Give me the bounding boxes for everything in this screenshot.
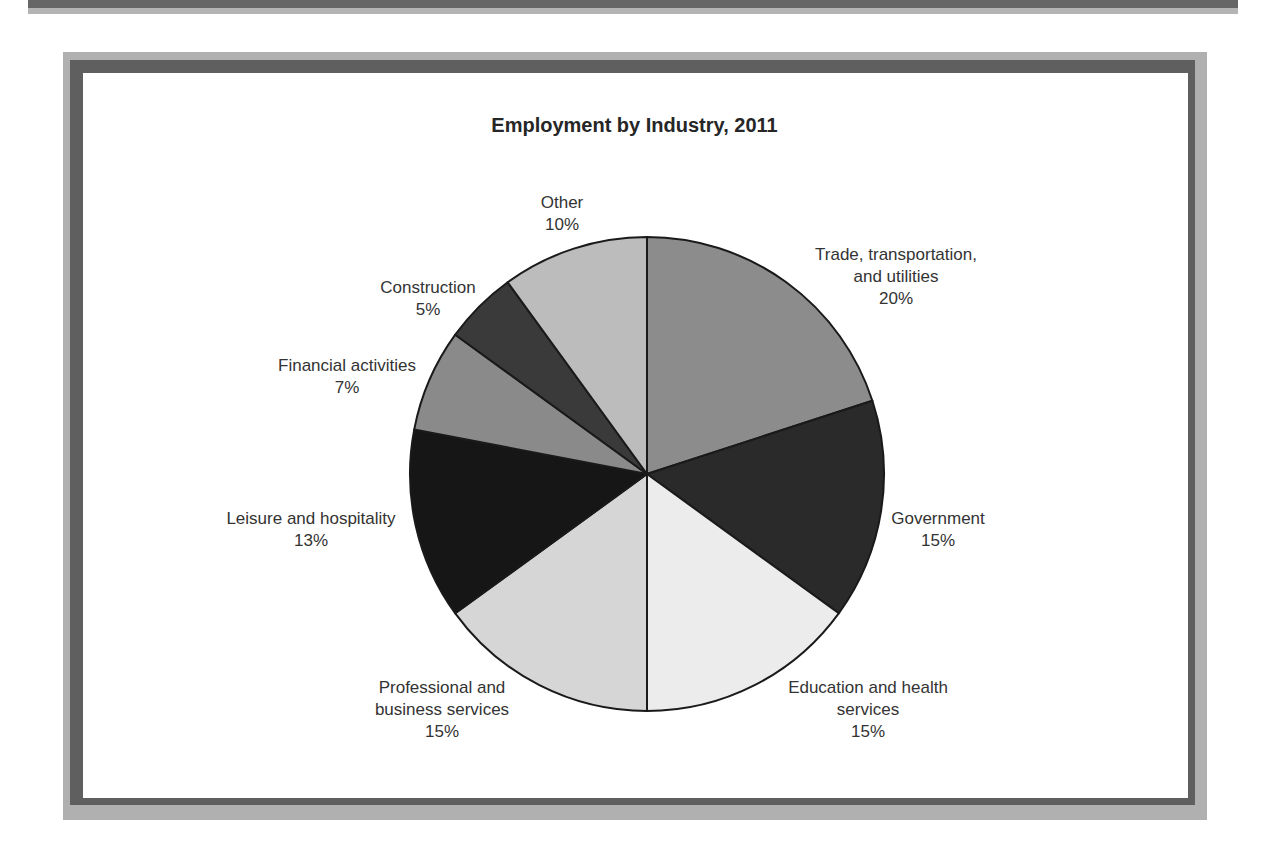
label-education-line1: Education and health — [788, 677, 948, 699]
label-leisure-line1: Leisure and hospitality — [226, 508, 395, 530]
label-other-pct: 10% — [541, 214, 584, 236]
label-government: Government 15% — [891, 508, 985, 552]
label-construction-line1: Construction — [380, 277, 475, 299]
label-education-line2: services — [788, 699, 948, 721]
label-financial-pct: 7% — [278, 377, 416, 399]
label-trade-pct: 20% — [815, 288, 977, 310]
label-professional-line1: Professional and — [375, 677, 509, 699]
label-education-health: Education and health services 15% — [788, 677, 948, 743]
label-government-line1: Government — [891, 508, 985, 530]
pie-chart — [0, 0, 1269, 864]
label-professional-business: Professional and business services 15% — [375, 677, 509, 743]
label-other: Other 10% — [541, 192, 584, 236]
label-trade-line2: and utilities — [815, 266, 977, 288]
label-construction-pct: 5% — [380, 299, 475, 321]
label-leisure-hospitality: Leisure and hospitality 13% — [226, 508, 395, 552]
label-professional-line2: business services — [375, 699, 509, 721]
label-leisure-pct: 13% — [226, 530, 395, 552]
label-financial-activities: Financial activities 7% — [278, 355, 416, 399]
pie-slices — [410, 237, 884, 711]
label-professional-pct: 15% — [375, 721, 509, 743]
label-trade-line1: Trade, transportation, — [815, 244, 977, 266]
label-other-line1: Other — [541, 192, 584, 214]
label-construction: Construction 5% — [380, 277, 475, 321]
label-trade: Trade, transportation, and utilities 20% — [815, 244, 977, 310]
label-government-pct: 15% — [891, 530, 985, 552]
label-financial-line1: Financial activities — [278, 355, 416, 377]
label-education-pct: 15% — [788, 721, 948, 743]
